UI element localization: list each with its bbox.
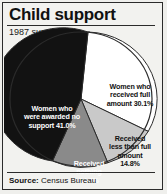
pie-label-awarded-no-support-line3: support 41.0% — [16, 122, 88, 130]
page-title: Child support — [9, 6, 116, 24]
pie-label-awarded-no-support: Women who were awarded no support 41.0% — [16, 105, 88, 130]
title-divider — [7, 25, 155, 26]
source-label: Source: — [9, 176, 39, 185]
source-value: Census Bureau — [41, 176, 96, 185]
source-divider — [7, 172, 155, 173]
pie-chart: Women who received full amount 30.1% Rec… — [4, 27, 161, 169]
figure-content: Child support 1987 survey Women who — [0, 0, 167, 194]
pie-label-received-full-line3: amount 30.1% — [96, 100, 164, 108]
pie-label-received-full: Women who received full amount 30.1% — [96, 83, 164, 108]
child-support-pie-chart-figure: Child support 1987 survey Women who — [0, 0, 167, 194]
source-line: Source: Census Bureau — [9, 176, 96, 186]
